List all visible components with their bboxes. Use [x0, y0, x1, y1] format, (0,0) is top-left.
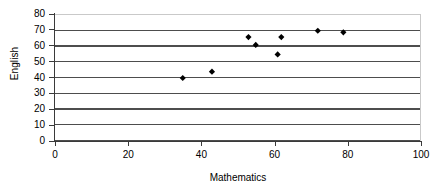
- y-tick: [49, 45, 55, 46]
- y-tick: [49, 77, 55, 78]
- y-tick-label: 30: [5, 88, 45, 98]
- data-markers-layer: [55, 15, 420, 141]
- y-tick-label: 0: [5, 136, 45, 146]
- data-point-marker: [278, 34, 284, 40]
- data-point-marker: [180, 75, 186, 81]
- data-point-marker: [340, 29, 346, 35]
- y-tick: [49, 29, 55, 30]
- x-tick-label: 100: [401, 150, 434, 160]
- x-tick: [421, 141, 422, 146]
- data-point-marker: [275, 51, 281, 57]
- y-tick-label: 10: [5, 120, 45, 130]
- y-tick: [49, 61, 55, 62]
- x-tick: [348, 141, 349, 146]
- x-tick-label: 80: [328, 150, 368, 160]
- x-tick: [275, 141, 276, 146]
- y-tick: [49, 125, 55, 126]
- y-tick-label: 80: [5, 9, 45, 19]
- data-point-marker: [245, 34, 251, 40]
- y-tick: [49, 93, 55, 94]
- x-tick-label: 20: [108, 150, 148, 160]
- x-tick-label: 40: [181, 150, 221, 160]
- x-axis-line: [54, 141, 421, 142]
- y-tick-label: 60: [5, 41, 45, 51]
- y-tick-label: 20: [5, 104, 45, 114]
- x-tick: [201, 141, 202, 146]
- y-tick: [49, 14, 55, 15]
- data-point-marker: [315, 28, 321, 34]
- data-point-marker: [253, 42, 259, 48]
- data-point-marker: [209, 69, 215, 75]
- x-tick-label: 60: [255, 150, 295, 160]
- scatter-chart: English 01020304050607080 020406080100 M…: [0, 0, 434, 194]
- x-tick: [128, 141, 129, 146]
- y-tick-label: 40: [5, 73, 45, 83]
- y-tick-label: 70: [5, 25, 45, 35]
- x-tick: [55, 141, 56, 146]
- y-tick: [49, 109, 55, 110]
- y-tick-label: 50: [5, 57, 45, 67]
- plot-area: [55, 14, 421, 141]
- x-axis-title: Mathematics: [55, 172, 421, 183]
- x-tick-label: 0: [35, 150, 75, 160]
